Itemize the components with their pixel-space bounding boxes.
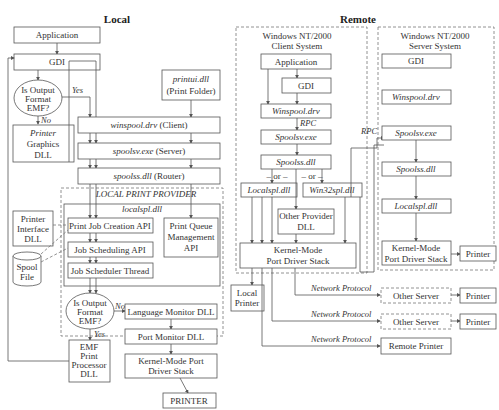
other-provider-dll-box: Other Provider DLL (278, 209, 334, 234)
local-printer-box: Local Printer (231, 285, 264, 311)
svg-text:Interface: Interface (17, 224, 49, 234)
printer-graphics-dll-box: Printer Graphics DLL (13, 125, 74, 162)
printer-box-2: Printer (460, 288, 496, 303)
svg-text:Kernel-Mode: Kernel-Mode (274, 245, 322, 255)
spoolss-router-box: spoolss.dll (Router) (78, 168, 220, 184)
emf-print-processor-dll-box: EMF Print Processor DLL (69, 340, 110, 382)
svg-text:Application: Application (36, 30, 79, 40)
printui-box: printui.dll (Print Folder) (162, 70, 220, 100)
server-title-2: Server System (409, 41, 461, 51)
port-monitor-dll-box: Port Monitor DLL (125, 329, 217, 344)
svg-text:spoolsv.exe (Server): spoolsv.exe (Server) (113, 146, 185, 156)
svg-text:File: File (20, 272, 34, 282)
svg-text:DLL: DLL (24, 234, 42, 244)
svg-text:Spoolsv.exe: Spoolsv.exe (395, 128, 437, 138)
svg-text:Printer: Printer (21, 214, 46, 224)
yes-label: Yes (72, 85, 84, 95)
client-win32spl-box: Win32spl.dll (303, 183, 362, 197)
other-server-box-2: Other Server (381, 314, 451, 329)
print-queue-management-api-box: Print Queue Management API (164, 218, 218, 257)
svg-text:printui.dll: printui.dll (172, 74, 210, 84)
heading-local: Local (104, 13, 130, 25)
svg-text:Remote Printer: Remote Printer (389, 341, 444, 351)
svg-text:Localspl.dll: Localspl.dll (394, 201, 438, 211)
svg-text:Other Server: Other Server (393, 317, 439, 327)
local-print-provider-title: LOCAL PRINT PROVIDER (95, 189, 197, 199)
remote-printer-box: Remote Printer (381, 338, 451, 354)
svg-text:Application: Application (275, 57, 318, 67)
yes-label-2: Yes (94, 329, 106, 339)
printer-interface-dll-box: Printer Interface DLL (13, 211, 53, 246)
svg-text:DLL: DLL (297, 222, 315, 232)
svg-text:Port Monitor DLL: Port Monitor DLL (138, 332, 205, 342)
svg-text:GDI: GDI (408, 56, 424, 66)
no-label-2: No (114, 301, 125, 311)
svg-text:winspool.drv (Client): winspool.drv (Client) (110, 120, 187, 130)
svg-text:Spoolss.dll: Spoolss.dll (276, 157, 316, 167)
heading-remote: Remote (340, 13, 376, 25)
svg-text:Port Driver Stack: Port Driver Stack (385, 254, 448, 264)
client-title-1: Windows NT/2000 (263, 31, 332, 41)
svg-text:Port Driver Stack: Port Driver Stack (267, 256, 330, 266)
winspool-client-box: winspool.drv (Client) (78, 117, 220, 133)
network-protocol-label-3: Network Protocol (310, 334, 372, 344)
spool-file-cylinder: Spool File (13, 252, 41, 286)
svg-text:Job Scheduler Thread: Job Scheduler Thread (71, 266, 150, 276)
decision-emf-2: Is Output Format EMF? (66, 293, 114, 329)
svg-text:Printer: Printer (466, 249, 491, 259)
svg-text:Print Job Creation API: Print Job Creation API (69, 221, 151, 231)
svg-text:EMF?: EMF? (79, 316, 102, 326)
server-localspl-box: Localspl.dll (382, 199, 451, 213)
print-job-creation-api-box: Print Job Creation API (68, 218, 153, 233)
svg-text:Spoolss.dll: Spoolss.dll (396, 164, 436, 174)
svg-text:Printer: Printer (235, 298, 260, 308)
printer-box: PRINTER (163, 393, 216, 408)
svg-text:Job Scheduling API: Job Scheduling API (74, 245, 146, 255)
job-scheduler-thread-box: Job Scheduler Thread (68, 263, 153, 278)
svg-text:Printer: Printer (466, 317, 491, 327)
svg-text:Management: Management (168, 232, 215, 242)
svg-text:GDI: GDI (298, 81, 314, 91)
spoolsv-server-box: spoolsv.exe (Server) (78, 143, 220, 159)
svg-text:(Print Folder): (Print Folder) (166, 86, 215, 96)
svg-text:Graphics: Graphics (27, 139, 60, 149)
client-localspl-box: Localspl.dll (241, 183, 297, 197)
network-protocol-label-1: Network Protocol (310, 283, 372, 293)
server-printer-box: Printer (460, 246, 496, 261)
svg-text:Spool: Spool (16, 262, 38, 272)
kernel-mode-port-driver-box: Kernel-Mode Port Driver Stack (125, 354, 217, 378)
server-gdi-box: GDI (382, 54, 451, 68)
client-rpc-label: RPC (299, 118, 316, 128)
server-kernel-port-driver-box: Kernel-Mode Port Driver Stack (382, 241, 451, 265)
svg-text:DLL: DLL (80, 369, 98, 379)
svg-text:API: API (184, 243, 199, 253)
svg-text:Kernel-Mode: Kernel-Mode (392, 243, 440, 253)
client-title-2: Client System (272, 41, 323, 51)
svg-text:Local: Local (237, 288, 258, 298)
localspl-label: localspl.dll (122, 204, 163, 214)
svg-text:Printer: Printer (466, 291, 491, 301)
other-server-box-1: Other Server (381, 288, 451, 303)
svg-text:Printer: Printer (29, 128, 56, 138)
svg-text:Winspool.drv: Winspool.drv (392, 92, 440, 102)
server-title-1: Windows NT/2000 (401, 31, 470, 41)
svg-text:spoolss.dll (Router): spoolss.dll (Router) (113, 171, 184, 181)
svg-text:DLL: DLL (34, 150, 52, 160)
svg-text:Print Queue: Print Queue (169, 221, 212, 231)
or-label-1: – or – (266, 171, 288, 181)
svg-text:Win32spl.dll: Win32spl.dll (309, 185, 355, 195)
client-winspool-box: Winspool.drv (261, 104, 331, 118)
svg-text:Spoolsv.exe: Spoolsv.exe (275, 132, 317, 142)
network-protocol-label-2: Network Protocol (310, 309, 372, 319)
svg-text:EMF?: EMF? (27, 103, 50, 113)
or-label-2: – or – (301, 171, 323, 181)
server-spoolsv-box: Spoolsv.exe (382, 126, 451, 140)
application-box: Application (14, 27, 100, 43)
svg-text:PRINTER: PRINTER (170, 396, 208, 406)
svg-text:Kernel-Mode Port: Kernel-Mode Port (138, 356, 204, 366)
client-spoolss-box: Spoolss.dll (261, 155, 331, 169)
server-winspool-box: Winspool.drv (382, 90, 451, 104)
client-spoolsv-box: Spoolsv.exe (261, 130, 331, 144)
svg-text:Other Server: Other Server (393, 291, 439, 301)
svg-text:GDI: GDI (49, 57, 65, 67)
